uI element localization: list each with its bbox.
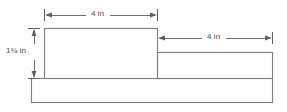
right-dimension-label: 4 in [204, 33, 223, 41]
top-dimension-label: 4 in [88, 10, 107, 18]
right-dimension-right-arrow [265, 36, 272, 41]
left-dimension-label-text: 1¾ in [3, 46, 29, 55]
top-dimension-label-text: 4 in [88, 9, 107, 18]
drawing-canvas [0, 0, 287, 112]
right-dimension-left-arrow [158, 36, 165, 41]
technical-drawing-figure: 4 in 4 in 1¾ in [0, 0, 287, 112]
top-dimension-left-arrow [45, 13, 52, 18]
base-bar [32, 79, 273, 103]
left-dimension-group [28, 29, 40, 79]
right-dimension-label-text: 4 in [204, 32, 223, 41]
left-dimension-label: 1¾ in [3, 47, 29, 55]
top-dimension-right-arrow [150, 13, 157, 18]
left-dimension-bottom-arrow [32, 71, 37, 78]
upper-left-block [45, 29, 158, 79]
right-step-block [158, 53, 273, 79]
left-dimension-top-arrow [32, 29, 37, 36]
shape-group [32, 29, 273, 103]
